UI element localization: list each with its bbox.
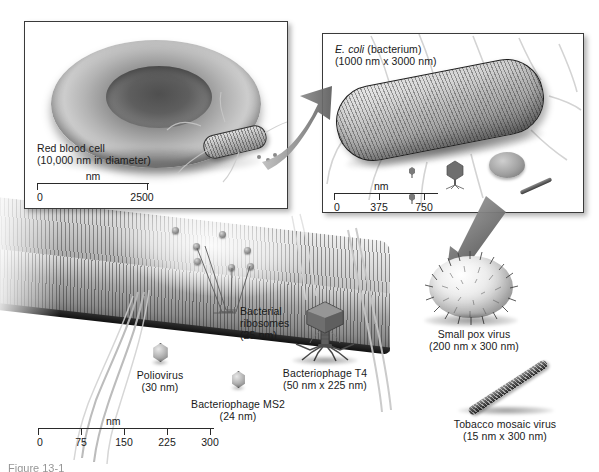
ribosome-dot: [219, 231, 226, 238]
ribosome-dot: [228, 264, 235, 271]
rbc-scale-unit: nm: [37, 170, 149, 182]
main-scale-unit: nm: [38, 415, 214, 427]
tobacco-mosaic-virus-label: Tobacco mosaic virus (15 nm x 300 nm): [422, 418, 588, 442]
tobacco-mosaic-virus-shadow: [458, 406, 554, 415]
bacteriophage-t4-shadow: [292, 356, 358, 365]
figure-caption-clipped: Figure 13-1: [8, 462, 64, 472]
panel-ecoli: E. coli (bacterium) (1000 nm x 3000 nm) …: [322, 33, 584, 213]
virus-size-comparison-figure: Red blood cell (10,000 nm in diameter) n…: [0, 0, 599, 472]
poliovirus-label: Poliovirus (30 nm): [112, 369, 208, 393]
ecoli-scale-unit: nm: [334, 180, 438, 192]
ribosome-dot: [247, 263, 254, 270]
ecoli-label: E. coli (bacterium) (1000 nm x 3000 nm): [335, 43, 437, 67]
rbc-scale-rule: [37, 183, 149, 191]
bacteriophage-t4-illustration: [288, 300, 362, 362]
main-scale-rule: [38, 428, 214, 436]
bacteriophage-t4-label: Bacteriophage T4 (50 nm x 225 nm): [262, 367, 388, 391]
rbc-scale-bar: nm 0 2500: [37, 170, 149, 204]
main-scale-ticks: 0 75 150 225 300: [38, 436, 214, 449]
mini-phage-t4: [441, 160, 469, 190]
smallpox-virus-shadow: [424, 314, 518, 327]
ecoli-scale-ticks: 0 375 750: [334, 201, 438, 213]
ecoli-scale-rule: [334, 193, 438, 201]
bacteriophage-ms2-shadow: [231, 386, 245, 390]
poliovirus-shadow: [152, 360, 168, 365]
smallpox-virus-label: Small pox virus (200 nm x 300 nm): [398, 328, 550, 352]
main-scale-bar: nm 0 75 150 225 300: [38, 415, 214, 449]
bacterial-ribosomes-label: Bacterial ribosomes (25 nm): [240, 305, 289, 342]
ribosome-dot: [172, 227, 179, 234]
mini-smallpox-virus: [489, 152, 525, 178]
ribosome-dot: [194, 258, 201, 265]
ecoli-scale-bar: nm 0 375 750: [334, 180, 438, 213]
rbc-scale-ticks: 0 2500: [37, 191, 149, 204]
panel-red-blood-cell: Red blood cell (10,000 nm in diameter) n…: [24, 21, 288, 209]
ribosome-dot: [193, 243, 200, 250]
ribosome-dot: [244, 247, 251, 254]
mini-phage-small: [407, 166, 417, 180]
ecoli-surface-fade: [0, 192, 60, 322]
rbc-label: Red blood cell (10,000 nm in diameter): [37, 142, 151, 166]
